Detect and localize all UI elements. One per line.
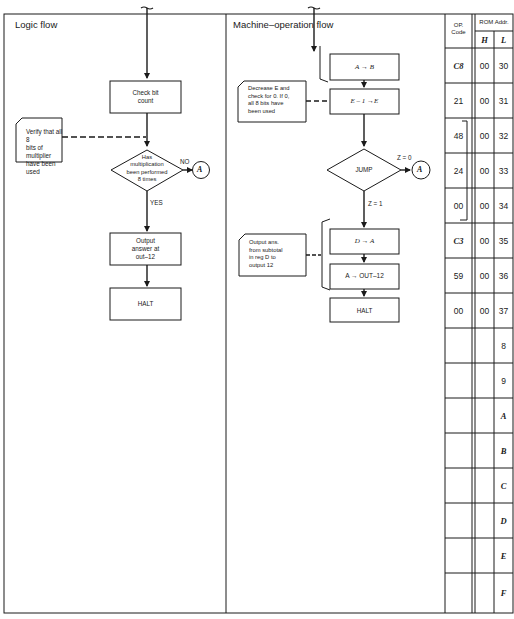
note-decrease-line-3: all 8 bits have (248, 100, 308, 108)
table-cell-op: 48 (445, 118, 472, 153)
table-cell-h: 00 (475, 153, 494, 188)
output-answer-label: Output answer at out–12 (110, 237, 181, 261)
decision-label: Has multiplication been performed 8 time… (112, 154, 182, 184)
table-cell-op: 59 (445, 258, 472, 293)
note-output: Output ans. from subtotal in reg D to ou… (249, 239, 307, 269)
table-cell-l: 8 (494, 328, 513, 363)
note-verify-line-2: bits of multiplier (26, 144, 66, 160)
header-h: H (475, 31, 494, 48)
table-cell-op (445, 468, 472, 503)
table-cell-op (445, 573, 472, 613)
table-cell-h: 00 (475, 83, 494, 118)
header-l: L (494, 31, 513, 48)
table-cell-op: C8 (445, 48, 472, 83)
jump-z1-label: Z = 1 (368, 200, 383, 208)
table-cell-l: 30 (494, 48, 513, 83)
table-cell-h: 00 (475, 188, 494, 223)
table-cell-h (475, 468, 494, 503)
logic-flow-title: Logic flow (15, 19, 57, 30)
table-cell-l: 32 (494, 118, 513, 153)
table-cell-l: 9 (494, 363, 513, 398)
decision-line-3: been performed (112, 169, 182, 176)
note-output-line-1: Output ans. (249, 239, 307, 247)
table-cell-l: C (494, 468, 513, 503)
note-decrease-line-4: been used (248, 108, 308, 116)
table-cell-h (475, 328, 494, 363)
note-output-line-4: output 12 (249, 262, 307, 270)
note-output-line-3: in reg D to (249, 254, 307, 262)
a-to-out-label: A → OUT–12 (330, 272, 399, 280)
decision-yes-label: YES (150, 199, 163, 207)
header-op-line-2: Code (445, 29, 472, 36)
table-cell-h (475, 538, 494, 573)
note-decrease-line-1: Decrease E and (248, 85, 308, 93)
table-cell-op (445, 398, 472, 433)
table-cell-l: E (494, 538, 513, 573)
output-line-1: Output (110, 237, 181, 245)
decision-line-2: multiplication (112, 161, 182, 168)
table-cell-op (445, 538, 472, 573)
a-to-b-label: A → B (330, 63, 399, 71)
table-cell-l: 35 (494, 223, 513, 258)
table-cell-op: 00 (445, 188, 472, 223)
note-verify-line-3: have been used (26, 160, 66, 176)
table-cell-h (475, 503, 494, 538)
table-cell-op: 21 (445, 83, 472, 118)
table-cell-l: 34 (494, 188, 513, 223)
table-cell-l: 36 (494, 258, 513, 293)
note-decrease: Decrease E and check for 0. If 0, all 8 … (248, 85, 308, 115)
machine-flow-title: Machine–operation flow (233, 19, 333, 30)
table-cell-h: 00 (475, 118, 494, 153)
output-line-2: answer at (110, 245, 181, 253)
check-bit-count-label: Check bit count (110, 89, 181, 105)
table-cell-h: 00 (475, 258, 494, 293)
table-cell-op (445, 503, 472, 538)
table-cell-op: 00 (445, 293, 472, 328)
table-cell-op: C3 (445, 223, 472, 258)
decision-line-4: 8 times (112, 176, 182, 183)
output-line-3: out–12 (110, 253, 181, 261)
jump-z0-label: Z = 0 (397, 154, 412, 162)
header-rom-addr: ROM Addr. (475, 19, 513, 26)
header-op-line-1: OP. (445, 22, 472, 29)
table-cell-op (445, 433, 472, 468)
jump-label: JUMP (327, 166, 401, 174)
table-cell-h (475, 363, 494, 398)
table-cell-h (475, 573, 494, 613)
halt-logic-label: HALT (110, 300, 181, 308)
table-cell-l: D (494, 503, 513, 538)
note-output-line-2: from subtotal (249, 247, 307, 255)
header-op-code: OP. Code (445, 22, 472, 36)
note-verify: Verify that all 8 bits of multiplier hav… (26, 128, 66, 176)
note-verify-line-1: Verify that all 8 (26, 128, 66, 144)
d-to-a-label: D → A (330, 237, 399, 245)
connector-a-logic-label: A (197, 165, 202, 174)
table-cell-l: 31 (494, 83, 513, 118)
halt-machine-label: HALT (330, 307, 399, 315)
decision-no-label: NO (180, 158, 189, 166)
decision-line-1: Has (112, 154, 182, 161)
table-cell-op (445, 328, 472, 363)
table-cell-l: F (494, 573, 513, 613)
table-cell-h (475, 398, 494, 433)
table-cell-l: 37 (494, 293, 513, 328)
table-cell-l: 33 (494, 153, 513, 188)
table-cell-op: 24 (445, 153, 472, 188)
table-cell-h: 00 (475, 48, 494, 83)
check-bit-line-2: count (110, 97, 181, 105)
table-cell-h: 00 (475, 293, 494, 328)
table-cell-l: A (494, 398, 513, 433)
check-bit-line-1: Check bit (110, 89, 181, 97)
table-cell-h (475, 433, 494, 468)
connector-a-machine-label: A (417, 165, 422, 174)
note-decrease-line-2: check for 0. If 0, (248, 93, 308, 101)
table-cell-op (445, 363, 472, 398)
e-decrement-label: E – 1 →E (330, 97, 399, 105)
table-cell-h: 00 (475, 223, 494, 258)
table-cell-l: B (494, 433, 513, 468)
